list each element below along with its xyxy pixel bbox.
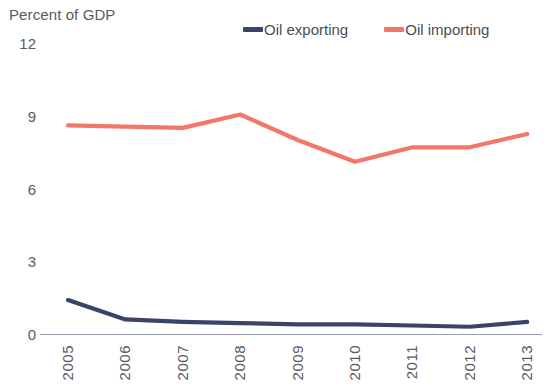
chart-container: Percent of GDP Oil exporting Oil importi… — [0, 0, 545, 391]
series-line-oil-exporting — [68, 300, 527, 327]
series-line-oil-importing — [68, 115, 527, 162]
plot-area — [0, 0, 545, 391]
